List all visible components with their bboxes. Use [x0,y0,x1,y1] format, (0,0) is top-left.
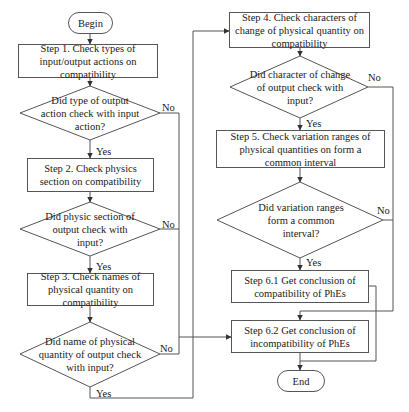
d1-no-label: No [162,102,175,114]
step-1-box: Step 1. Check types of input/output acti… [18,44,158,78]
step-6-2-box: Step 6.2 Get conclusion of incompatibili… [231,320,369,353]
decision-5-text: Did variation ranges form a common inter… [248,207,354,233]
d3-no-label: No [160,343,173,355]
step-3-text: Step 3. Check names of physical quantity… [31,270,150,309]
begin-label: Begin [78,17,103,30]
flowchart-canvas: Begin End Step 1. Check types of input/o… [0,0,409,412]
step-5-text: Step 5. Check variation ranges of physic… [220,130,381,169]
decision-4-text: Did character of change of output check … [248,74,352,100]
step-3-box: Step 3. Check names of physical quantity… [27,273,154,306]
step-5-box: Step 5. Check variation ranges of physic… [216,130,385,168]
begin-terminal: Begin [68,12,113,34]
decision-1-text: Did type of output action check with inp… [38,100,142,126]
d1-yes-label: Yes [96,146,111,158]
step-6-2-text: Step 6.2 Get conclusion of incompatibili… [235,324,365,350]
decision-3-text: Did name of physical quantity of output … [36,335,144,374]
decision-2-text: Did physic section of output check with … [40,216,140,242]
step-6-1-text: Step 6.1 Get conclusion of compatibility… [235,274,365,300]
end-terminal: End [277,370,325,392]
d4-yes-label: Yes [306,118,321,130]
step-6-1-box: Step 6.1 Get conclusion of compatibility… [231,270,369,303]
d3-yes-label: Yes [96,388,111,400]
d4-no-label: No [368,72,381,84]
step-4-text: Step 4. Check characters of change of ph… [233,11,366,50]
end-label: End [293,375,310,388]
step-4-box: Step 4. Check characters of change of ph… [229,12,370,48]
d5-no-label: No [377,205,390,217]
d2-yes-label: Yes [96,261,111,273]
step-2-box: Step 2. Check physics section on compati… [27,158,154,192]
step-1-text: Step 1. Check types of input/output acti… [22,42,154,81]
d5-yes-label: Yes [306,257,321,269]
d2-no-label: No [162,219,175,231]
step-2-text: Step 2. Check physics section on compati… [31,162,150,188]
